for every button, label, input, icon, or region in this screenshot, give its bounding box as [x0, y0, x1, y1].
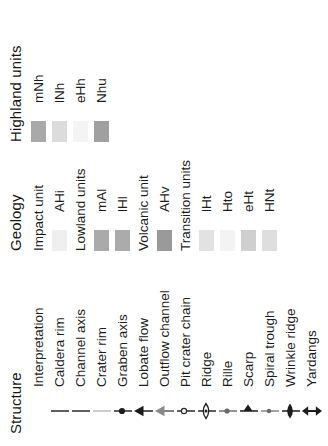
geology-group-header-lowland: Lowland units [70, 160, 91, 251]
section-title-structure: Structure [8, 372, 24, 434]
swatch-cell-Nhu [91, 104, 112, 142]
unit-code-Nhu: Nhu [91, 78, 112, 104]
legend-row-pit-crater-chain[interactable]: Pit crater chain [175, 269, 196, 434]
legend-row-outflow-channel[interactable]: Outflow channel [154, 269, 175, 434]
symbol-line-halfarrow-icon [238, 388, 259, 434]
legend-row-lNh[interactable]: lNh [49, 74, 70, 142]
legend-label-pit-crater-chain: Pit crater chain [175, 269, 196, 388]
unit-code-AHi: AHi [49, 190, 70, 213]
legend-label-caldera-rim: Caldera rim [49, 269, 70, 388]
legend-row-graben-axis[interactable]: Graben axis [112, 269, 133, 434]
swatch-cell-lHl [112, 213, 133, 251]
legend-row-crater-rim[interactable]: Crater rim [91, 269, 112, 434]
swatch-cell-Hto [217, 213, 238, 251]
unit-code-lHt: lHt [196, 196, 217, 214]
unit-code-eHh: eHh [70, 78, 91, 104]
symbol-line-dot-dark-icon [112, 388, 133, 434]
symbol-line-arrow-black-icon [133, 388, 154, 434]
geology-group-label-volcanic: Volcanic unit [133, 175, 154, 251]
legend-section-geology: Geology Impact unit AHi Lowland units m [8, 160, 280, 251]
swatch-cell-AHi [49, 213, 70, 251]
geology-group-label-lowland: Lowland units [70, 168, 91, 251]
color-swatch-eHh [73, 121, 88, 142]
legend-row-mNh[interactable]: mNh [28, 74, 49, 142]
symbol-line-circle-open-icon [175, 388, 196, 434]
legend-row-lobate-flow[interactable]: Lobate flow [133, 269, 154, 434]
unit-code-HNt: HNt [259, 189, 280, 213]
structure-subheader-row: Interpretation [28, 269, 49, 434]
color-swatch-mAl [94, 230, 109, 251]
legend-row-mAl[interactable]: mAl [91, 160, 112, 251]
legend-row-Hto[interactable]: Hto [217, 160, 238, 251]
legend-row-lHt[interactable]: lHt [196, 160, 217, 251]
symbol-line-dot-gray-small-icon [259, 388, 280, 434]
legend-label-wrinkle-ridge: Wrinkle ridge [280, 269, 301, 388]
legend-row-yardangs[interactable]: Yardangs [301, 269, 322, 434]
legend-label-lobate-flow: Lobate flow [133, 269, 154, 388]
legend-row-lHl[interactable]: lHl [112, 160, 133, 251]
legend-section-structure: Structure Interpretation Caldera rim Cha… [8, 269, 322, 434]
color-swatch-AHi [52, 230, 67, 251]
geology-group-label-transition: Transition units [175, 160, 196, 251]
legend-row-AHv[interactable]: AHv [154, 160, 175, 251]
legend-row-wrinkle-ridge[interactable]: Wrinkle ridge [280, 269, 301, 434]
unit-code-AHv: AHv [154, 186, 175, 213]
geology-group-label-impact: Impact unit [28, 185, 49, 251]
legend-label-yardangs: Yardangs [301, 269, 322, 388]
legend-label-spiral-trough: Spiral trough [259, 269, 280, 388]
swatch-cell-lNh [49, 104, 70, 142]
legend-row-scarp[interactable]: Scarp [238, 269, 259, 434]
legend-section-highland: Highland units mNh lNh eHh [8, 45, 112, 141]
legend-label-rille: Rille [217, 269, 238, 388]
symbol-line-plain-dark-icon [49, 388, 70, 434]
unit-code-lNh: lNh [49, 83, 70, 104]
swatch-cell-AHv [154, 213, 175, 251]
legend-label-ridge: Ridge [196, 269, 217, 388]
symbol-line-plain-dark-icon [70, 388, 91, 434]
geology-group-header-volcanic: Volcanic unit [133, 160, 154, 251]
symbol-line-lens-open-icon [196, 388, 217, 434]
legend-row-Nhu[interactable]: Nhu [91, 74, 112, 142]
symbol-line-dot-gray-icon [217, 388, 238, 434]
legend-label-channel-axis: Channel axis [70, 269, 91, 388]
section-title-geology: Geology [8, 194, 24, 251]
symbol-line-double-arrow-icon [301, 388, 322, 434]
highland-rows: mNh lNh eHh Nhu [28, 74, 112, 142]
legend-label-outflow-channel: Outflow channel [154, 269, 175, 388]
structure-subheader-label: Interpretation [28, 269, 49, 388]
unit-code-eHt: eHt [238, 191, 259, 213]
symbol-line-arrow-gray-icon [154, 388, 175, 434]
color-swatch-HNt [262, 230, 277, 251]
legend-row-eHt[interactable]: eHt [238, 160, 259, 251]
legend-row-AHi[interactable]: AHi [49, 160, 70, 251]
swatch-cell-HNt [259, 213, 280, 251]
color-swatch-AHv [157, 230, 172, 251]
unit-code-mAl: mAl [91, 189, 112, 213]
legend-row-eHh[interactable]: eHh [70, 74, 91, 142]
legend-row-HNt[interactable]: HNt [259, 160, 280, 251]
color-swatch-lHt [199, 230, 214, 251]
swatch-cell-eHh [70, 104, 91, 142]
color-swatch-eHt [241, 230, 256, 251]
legend-label-graben-axis: Graben axis [112, 269, 133, 388]
color-swatch-mNh [31, 121, 46, 142]
legend-row-spiral-trough[interactable]: Spiral trough [259, 269, 280, 434]
symbol-line-plain-light-icon [91, 388, 112, 434]
legend-row-rille[interactable]: Rille [217, 269, 238, 434]
legend-label-crater-rim: Crater rim [91, 269, 112, 388]
unit-code-Hto: Hto [217, 191, 238, 213]
section-title-highland: Highland units [8, 45, 24, 141]
legend-row-channel-axis[interactable]: Channel axis [70, 269, 91, 434]
unit-code-mNh: mNh [28, 74, 49, 104]
color-swatch-lHl [115, 230, 130, 251]
unit-code-lHl: lHl [112, 196, 133, 213]
color-swatch-Hto [220, 230, 235, 251]
structure-rows: Interpretation Caldera rim Channel axis [28, 269, 322, 434]
legend-row-ridge[interactable]: Ridge [196, 269, 217, 434]
swatch-cell-lHt [196, 213, 217, 251]
symbol-line-lens-filled-icon [280, 388, 301, 434]
geology-group-header-impact: Impact unit [28, 160, 49, 251]
geology-rows: Impact unit AHi Lowland units mAl [28, 160, 280, 251]
legend-row-caldera-rim[interactable]: Caldera rim [49, 269, 70, 434]
swatch-cell-eHt [238, 213, 259, 251]
